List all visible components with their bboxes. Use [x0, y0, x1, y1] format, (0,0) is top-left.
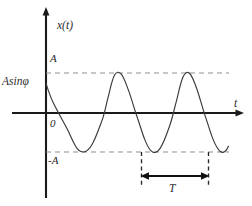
initial-value-label: Asinφ — [2, 76, 29, 88]
period-arrow-head-right — [201, 172, 210, 180]
plot-svg — [0, 0, 252, 206]
y-axis-label: x(t) — [57, 20, 73, 32]
period-arrow — [141, 172, 210, 180]
figure-canvas: x(t) A Asinφ 0 -A t T — [0, 0, 252, 206]
period-arrow-head-left — [141, 172, 150, 180]
x-axis-arrowhead — [236, 109, 245, 116]
amplitude-positive-label: A — [50, 53, 57, 64]
y-axis-group — [43, 7, 50, 198]
period-label: T — [169, 183, 175, 195]
origin-label: 0 — [50, 118, 56, 129]
amplitude-negative-label: -A — [48, 155, 58, 166]
x-axis-label: t — [234, 98, 237, 110]
y-axis-arrowhead — [43, 7, 50, 15]
